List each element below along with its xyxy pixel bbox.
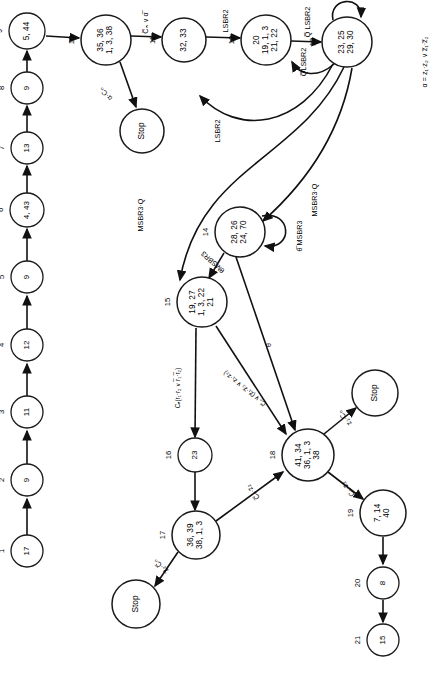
edge-label-theta-msbr3-sl: θ̅ MSBR3 xyxy=(296,221,304,252)
state-label-7: 13 xyxy=(23,143,32,152)
state-index-20: 20 xyxy=(354,579,362,587)
edge-10-stop xyxy=(120,62,136,107)
state-label-16: 23 xyxy=(191,450,200,459)
state-index-4: 4 xyxy=(0,343,6,347)
state-label-5: 9 xyxy=(23,275,32,280)
state-label-4: 12 xyxy=(23,340,32,349)
edge-label-cn-r1r2: Cₙ(r₁·r₂ ∨ r̅₁·r̅₂) xyxy=(175,368,182,408)
edge-15-18 xyxy=(216,326,286,434)
edge-label-msbr3-q-left: MSBR3·Q xyxy=(137,199,145,232)
state-label-8: 9 xyxy=(23,86,32,91)
state-index-14: 14 xyxy=(202,228,210,236)
state-index-9: 9 xyxy=(0,29,4,33)
state-index-13: 13 xyxy=(309,38,317,46)
edge-label-cn-or-alpha: C̅ₙ ∨ α̅ xyxy=(142,12,150,33)
state-index-8: 8 xyxy=(0,86,6,90)
state-label-21: 15 xyxy=(379,635,388,644)
state-index-15: 15 xyxy=(164,298,172,306)
state-label-18: 41, 3436, 1, 338 xyxy=(295,441,322,469)
state-index-7: 7 xyxy=(0,146,6,150)
edge-label-q-lsbr2-loop: Q̅LSBR2 xyxy=(300,48,308,76)
state-index-5: 5 xyxy=(0,275,6,279)
edge-label-q-lsbr2: Q̅ LSBR2 xyxy=(304,7,312,37)
diagram-edges xyxy=(0,0,441,676)
edge-label-msbr3-q-right: MSBR3·Q xyxy=(311,184,319,217)
stop-label-stop-b: Stop xyxy=(131,595,140,612)
state-label-12: 2019, 1, 321, 22 xyxy=(253,26,280,54)
state-index-18: 18 xyxy=(269,451,277,459)
state-label-15: 19, 271, 3, 2221 xyxy=(189,288,216,316)
state-index-12: 12 xyxy=(228,36,236,44)
state-index-2: 2 xyxy=(0,478,6,482)
state-index-17: 17 xyxy=(159,531,167,539)
edge-label-lsbr2-a: LSBR2 xyxy=(222,10,230,33)
stop-label-stop-c: Stop xyxy=(370,384,379,401)
state-index-11: 11 xyxy=(149,36,157,44)
state-index-3: 3 xyxy=(0,410,6,414)
state-index-16: 16 xyxy=(165,451,173,459)
state-label-19: 7, 1440 xyxy=(374,504,392,523)
edge-15-16 xyxy=(195,328,196,437)
state-label-6: 4, 43 xyxy=(23,201,32,219)
state-label-17: 36, 3938, 1, 3 xyxy=(187,521,205,549)
state-label-3: 11 xyxy=(23,408,32,417)
state-index-21: 21 xyxy=(354,636,362,644)
state-index-10: 10 xyxy=(68,36,76,44)
state-label-2: 9 xyxy=(23,478,32,483)
edge-label-theta: θ xyxy=(265,343,273,347)
diagram-canvas: 17192113124954, 436137985, 44935, 361, 3… xyxy=(0,0,441,676)
state-label-20: 8 xyxy=(379,581,388,586)
state-index-6: 6 xyxy=(0,208,5,212)
state-label-11: 32, 33 xyxy=(180,28,189,51)
state-label-13: 23, 2529, 30 xyxy=(338,30,356,53)
edge-label-lsbr2-back: LSBR2 xyxy=(214,120,222,143)
node-circle-group xyxy=(9,13,406,656)
state-label-1: 17 xyxy=(23,546,32,555)
state-label-10: 35, 361, 3, 38 xyxy=(97,26,115,54)
state-label-9: 5, 44 xyxy=(23,22,32,41)
edge-13-14-msbr3barq xyxy=(263,68,352,221)
stop-label-stop-a: Stop xyxy=(137,122,146,139)
state-label-14: 28, 2624, 70 xyxy=(231,220,249,243)
legend-text: α = z₁·z₂ ∨ z̅₁·z̅₂ xyxy=(421,37,429,88)
state-index-19: 19 xyxy=(347,509,355,517)
state-index-1: 1 xyxy=(0,549,6,553)
